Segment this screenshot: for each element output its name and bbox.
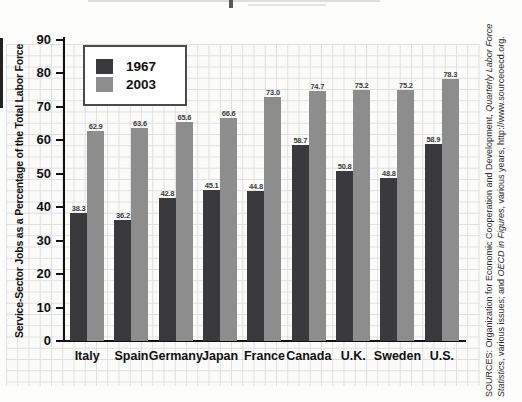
bar-value-label: 73.0 xyxy=(266,88,280,97)
y-tick-mark xyxy=(56,206,63,208)
bar-2003-us: 78.3 xyxy=(442,79,459,341)
y-tick-label: 20 xyxy=(21,267,51,281)
source-citation-line-2: Statistics, various issues; and OECD in … xyxy=(496,5,508,397)
bar-group-sweden: 48.875.2Sweden xyxy=(380,40,414,341)
y-tick-label: 0 xyxy=(21,334,51,348)
cropped-page-text-artifact xyxy=(248,4,326,6)
y-tick-label: 50 xyxy=(21,167,51,181)
y-tick-label: 40 xyxy=(21,200,51,214)
category-label: Germany xyxy=(149,349,203,363)
category-label: Spain xyxy=(114,349,148,363)
legend-swatch-1967 xyxy=(96,59,113,74)
y-tick-label: 70 xyxy=(21,100,51,114)
bar-1967-japan: 45.1 xyxy=(203,190,220,341)
category-label: Japan xyxy=(202,349,238,363)
bar-value-label: 58.9 xyxy=(426,135,440,144)
bar-2003-canada: 74.7 xyxy=(309,91,326,341)
y-tick-mark xyxy=(56,72,63,74)
y-tick-mark xyxy=(56,139,63,141)
bar-1967-us: 58.9 xyxy=(425,144,442,341)
source-text-segment: SOURCES: Organization for Economic Coope… xyxy=(484,112,494,397)
cropped-page-text-artifact xyxy=(229,0,233,8)
legend-row-2003: 2003 xyxy=(96,77,175,92)
bar-1967-france: 44.8 xyxy=(247,191,264,341)
bar-value-label: 65.6 xyxy=(177,113,191,122)
bar-1967-canada: 58.7 xyxy=(292,145,309,341)
y-tick-label: 10 xyxy=(21,301,51,315)
source-text-segment: , various issues; and xyxy=(496,276,506,361)
source-text-segment: OECD in Figures xyxy=(496,208,506,276)
y-tick-mark xyxy=(56,340,63,342)
y-tick-mark xyxy=(56,307,63,309)
y-tick-label: 80 xyxy=(21,66,51,80)
bar-value-label: 45.1 xyxy=(205,181,219,190)
bar-1967-spain: 36.2 xyxy=(114,220,131,341)
y-tick-label: 30 xyxy=(21,234,51,248)
legend-swatch-2003 xyxy=(96,77,113,92)
bar-value-label: 75.2 xyxy=(399,81,413,90)
bar-1967-italy: 38.3 xyxy=(70,213,87,341)
bar-value-label: 62.9 xyxy=(89,122,103,131)
bar-value-label: 66.6 xyxy=(222,109,236,118)
bar-2003-sweden: 75.2 xyxy=(397,90,414,342)
bar-2003-italy: 62.9 xyxy=(87,131,104,341)
bar-2003-japan: 66.6 xyxy=(220,118,237,341)
bar-2003-germany: 65.6 xyxy=(176,122,193,341)
y-axis: 0102030405060708090 xyxy=(0,40,63,341)
y-tick-mark xyxy=(56,39,63,41)
legend-row-1967: 1967 xyxy=(96,59,175,74)
y-tick-label: 90 xyxy=(21,33,51,47)
bar-value-label: 36.2 xyxy=(116,211,130,220)
bar-value-label: 74.7 xyxy=(310,82,324,91)
y-tick-mark xyxy=(56,240,63,242)
bar-group-canada: 58.774.7Canada xyxy=(292,40,326,341)
bar-value-label: 58.7 xyxy=(293,136,307,145)
bar-group-france: 44.873.0France xyxy=(247,40,281,341)
source-text-segment: Statistics xyxy=(496,361,506,397)
source-text-segment: , various years, http://www.sourceoecd.o… xyxy=(496,36,506,208)
category-label: Canada xyxy=(286,349,331,363)
cropped-page-text-artifact xyxy=(88,0,380,2)
bar-group-us: 58.978.3U.S. xyxy=(425,40,459,341)
legend-label-2003: 2003 xyxy=(126,77,156,92)
bar-2003-france: 73.0 xyxy=(264,97,281,341)
bar-group-japan: 45.166.6Japan xyxy=(203,40,237,341)
bar-1967-sweden: 48.8 xyxy=(380,178,397,341)
y-tick-mark xyxy=(56,273,63,275)
bar-value-label: 48.8 xyxy=(382,169,396,178)
bar-value-label: 38.3 xyxy=(72,204,86,213)
bar-1967-germany: 42.8 xyxy=(159,198,176,341)
bar-group-uk: 50.875.2U.K. xyxy=(336,40,370,341)
category-label: Italy xyxy=(75,349,100,363)
category-label: Sweden xyxy=(374,349,421,363)
y-tick-label: 60 xyxy=(21,133,51,147)
bar-value-label: 50.8 xyxy=(338,162,352,171)
bar-value-label: 44.8 xyxy=(249,182,263,191)
y-tick-mark xyxy=(56,173,63,175)
bar-2003-uk: 75.2 xyxy=(353,90,370,342)
source-text-segment: Quarterly Labor Force xyxy=(484,24,494,112)
source-citation-line-1: SOURCES: Organization for Economic Coope… xyxy=(484,5,496,397)
bar-value-label: 42.8 xyxy=(160,189,174,198)
bar-2003-spain: 63.6 xyxy=(131,128,148,341)
bar-value-label: 78.3 xyxy=(443,70,457,79)
legend-label-1967: 1967 xyxy=(126,59,156,74)
service-sector-bar-chart-figure: Service-Sector Jobs as a Percentage of t… xyxy=(0,0,522,402)
category-label: U.S. xyxy=(430,349,454,363)
bar-value-label: 63.6 xyxy=(133,119,147,128)
bar-value-label: 75.2 xyxy=(355,81,369,90)
y-tick-mark xyxy=(56,106,63,108)
bar-1967-uk: 50.8 xyxy=(336,171,353,341)
category-label: U.K. xyxy=(341,349,366,363)
legend: 1967 2003 xyxy=(83,45,187,106)
source-citation: SOURCES: Organization for Economic Coope… xyxy=(484,5,507,397)
category-label: France xyxy=(244,349,285,363)
